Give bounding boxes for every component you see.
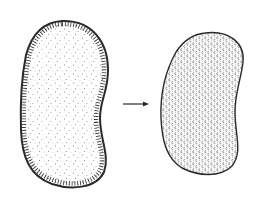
left-cell [21,21,108,187]
figure [0,0,260,200]
transformation-arrow-icon [123,102,149,107]
right-cell [161,33,243,175]
